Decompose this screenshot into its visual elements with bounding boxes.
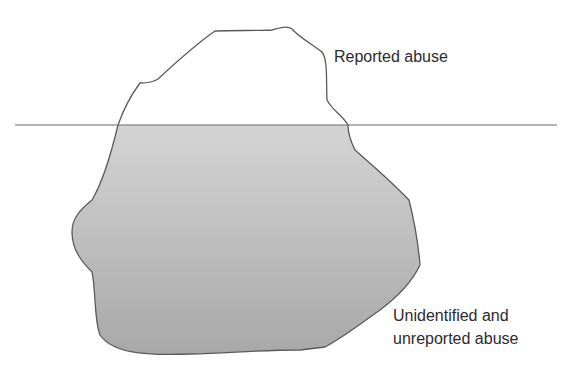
label-reported-abuse-text: Reported abuse bbox=[334, 48, 448, 65]
label-unreported-line2: unreported abuse bbox=[393, 327, 518, 350]
label-unreported-abuse: Unidentified and unreported abuse bbox=[393, 304, 518, 350]
iceberg-submerged-fill bbox=[72, 125, 420, 354]
label-unreported-line1: Unidentified and bbox=[393, 304, 518, 327]
label-reported-abuse: Reported abuse bbox=[334, 45, 448, 68]
